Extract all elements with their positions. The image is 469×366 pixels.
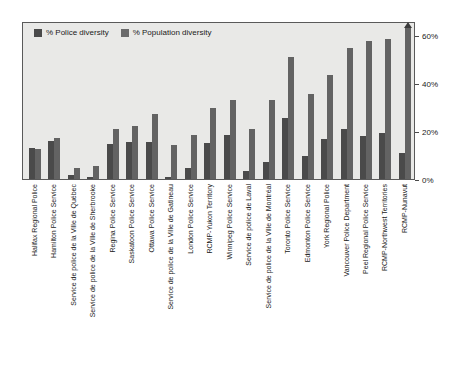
- x-axis-label-slot: RCMP-Nunavut: [399, 182, 411, 322]
- x-axis-label: Service de police de Laval: [245, 184, 253, 266]
- x-axis-label-slot: Saskatoon Police Service: [126, 182, 138, 322]
- bar: [191, 135, 197, 179]
- x-axis-label: Service de police de la Ville de Sherbro…: [89, 184, 97, 317]
- bar: [347, 48, 353, 179]
- bar: [385, 39, 391, 179]
- x-axis-label: RCMP-Yukon Territory: [206, 184, 214, 254]
- legend-label-population-diversity: % Population diversity: [133, 28, 212, 37]
- y-axis: 0%20%40%60%: [415, 22, 467, 180]
- y-axis-tick-mark: [415, 84, 419, 85]
- x-axis-label: RCMP-Nunavut: [401, 184, 409, 233]
- x-axis-label: Toronto Police Service: [284, 184, 292, 254]
- chart-legend: % Police diversity % Population diversit…: [34, 28, 211, 37]
- bar: [366, 41, 372, 179]
- x-axis-label: London Police Service: [187, 184, 195, 254]
- y-axis-tick-label: 60%: [422, 33, 438, 41]
- bar-group: [87, 23, 99, 179]
- bar: [210, 108, 216, 179]
- x-axis-label-slot: RCMP-Yukon Territory: [204, 182, 216, 322]
- x-axis-label: Service de police de la Ville de Montréa…: [265, 184, 273, 308]
- y-axis-tick-label: 0%: [422, 177, 434, 185]
- x-axis-label: RCMP-Northwest Territories: [381, 184, 389, 271]
- bar: [93, 166, 99, 179]
- bar-group: [29, 23, 41, 179]
- x-axis-labels: Halifax Regional PoliceHamilton Police S…: [23, 182, 414, 322]
- x-axis-label-slot: London Police Service: [185, 182, 197, 322]
- x-axis-label-slot: Hamilton Police Service: [48, 182, 60, 322]
- x-axis-label-slot: Service de police de Laval: [243, 182, 255, 322]
- x-axis-label-slot: Service de police de la Ville de Sherbro…: [87, 182, 99, 322]
- bar-group: [399, 23, 411, 179]
- y-axis-tick: 40%: [415, 84, 438, 85]
- x-axis-label-slot: RCMP-Northwest Territories: [379, 182, 391, 322]
- bar: [249, 129, 255, 179]
- bar: [132, 126, 138, 179]
- x-axis-label-slot: Ottawa Police Service: [146, 182, 158, 322]
- legend-swatch-icon-population-diversity: [121, 29, 129, 37]
- bar-group: [263, 23, 275, 179]
- x-axis-label-slot: Peel Regional Police Service: [360, 182, 372, 322]
- x-axis-label: Service de police de la Ville de Gatinea…: [167, 184, 175, 310]
- bar-group: [302, 23, 314, 179]
- bar-group: [224, 23, 236, 179]
- bar-group: [243, 23, 255, 179]
- x-axis-label-slot: Service de police de la Ville de Gatinea…: [165, 182, 177, 322]
- bar-group: [48, 23, 60, 179]
- x-axis-label-slot: York Regional Police: [321, 182, 333, 322]
- y-axis-tick-label: 40%: [422, 81, 438, 89]
- y-axis-tick-mark: [415, 36, 419, 37]
- x-axis-label: Halifax Regional Police: [31, 184, 39, 256]
- bar: [269, 100, 275, 179]
- bar-group: [68, 23, 80, 179]
- bar-group: [165, 23, 177, 179]
- y-axis-tick-mark: [415, 180, 419, 181]
- x-axis-label-slot: Vancouver Police Department: [341, 182, 353, 322]
- legend-entry-population-diversity: % Population diversity: [121, 28, 212, 37]
- bar: [327, 75, 333, 179]
- bar: [54, 138, 60, 179]
- bar-group: [360, 23, 372, 179]
- bar-group: [126, 23, 138, 179]
- x-axis-label: Hamilton Police Service: [50, 184, 58, 258]
- bar-groups-container: [23, 23, 414, 179]
- x-axis-label-slot: Winnipeg Police Service: [224, 182, 236, 322]
- legend-swatch-icon-police-diversity: [34, 29, 42, 37]
- bar-group: [204, 23, 216, 179]
- x-axis-label-slot: Halifax Regional Police: [29, 182, 41, 322]
- bar-group: [341, 23, 353, 179]
- x-axis-label: York Regional Police: [323, 184, 331, 248]
- bar-group: [185, 23, 197, 179]
- y-axis-tick: 60%: [415, 36, 438, 37]
- y-axis-tick: 0%: [415, 180, 434, 181]
- bar: [35, 149, 41, 179]
- x-axis-label-slot: Service de police de la Ville de Montréa…: [263, 182, 275, 322]
- x-axis-label-slot: Toronto Police Service: [282, 182, 294, 322]
- bar-group: [321, 23, 333, 179]
- x-axis-label-slot: Service de police de la Ville de Québec: [68, 182, 80, 322]
- bar-group: [379, 23, 391, 179]
- x-axis-label: Service de police de la Ville de Québec: [70, 184, 78, 306]
- x-axis-label: Winnipeg Police Service: [226, 184, 234, 259]
- bar: [405, 28, 411, 179]
- x-axis-label-slot: Edmonton Police Service: [302, 182, 314, 322]
- bar: [113, 129, 119, 179]
- bar-group: [146, 23, 158, 179]
- legend-label-police-diversity: % Police diversity: [46, 28, 109, 37]
- x-axis-label: Regina Police Service: [109, 184, 117, 252]
- y-axis-tick-mark: [415, 132, 419, 133]
- chart-figure: % Police diversity % Population diversit…: [0, 0, 469, 366]
- y-axis-tick-label: 20%: [422, 129, 438, 137]
- bar: [171, 145, 177, 179]
- x-axis-label: Vancouver Police Department: [343, 184, 351, 276]
- x-axis-label: Edmonton Police Service: [304, 184, 312, 262]
- bar: [308, 94, 314, 179]
- up-arrow-icon: [404, 22, 412, 28]
- bar: [152, 114, 158, 179]
- bar: [288, 57, 294, 179]
- x-axis-label: Saskatoon Police Service: [128, 184, 136, 263]
- y-axis-tick: 20%: [415, 132, 438, 133]
- bar-group: [107, 23, 119, 179]
- bar: [74, 168, 80, 179]
- bar: [230, 100, 236, 179]
- x-axis-label-slot: Regina Police Service: [107, 182, 119, 322]
